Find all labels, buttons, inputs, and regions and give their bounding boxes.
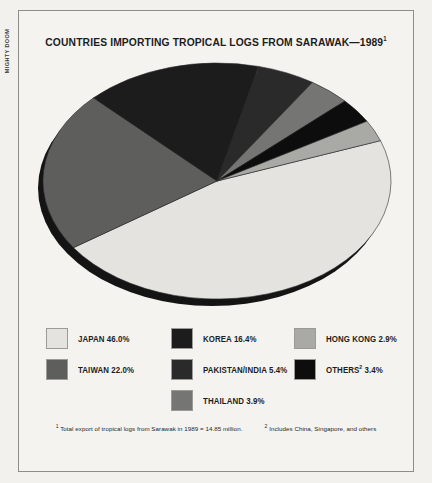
legend-label: TAIWAN 22.0% — [78, 365, 134, 375]
legend-swatch — [294, 328, 316, 349]
figure-page: MIGHTY DOOM COUNTRIES IMPORTING TROPICAL… — [0, 0, 432, 483]
footnotes: 1 Total export of tropical logs from Sar… — [19, 423, 413, 432]
legend-label: PAKISTAN/INDIA 5.4% — [203, 365, 287, 375]
legend-item: PAKISTAN/INDIA 5.4% — [171, 354, 293, 385]
legend-label: THAILAND 3.9% — [203, 396, 265, 406]
legend-label: HONG KONG 2.9% — [326, 334, 397, 344]
chart-title-footnote-marker: 1 — [383, 35, 386, 42]
legend-column-3: HONG KONG 2.9%OTHERS2 3.4% — [294, 323, 401, 385]
legend-label: KOREA 16.4% — [203, 334, 257, 344]
pie-chart-svg — [31, 53, 403, 315]
legend-swatch — [46, 328, 68, 349]
chart-title-text: COUNTRIES IMPORTING TROPICAL LOGS FROM S… — [45, 36, 383, 48]
footnote: 2 Includes China, Singapore, and others — [265, 423, 377, 432]
edge-caption: MIGHTY DOOM — [0, 8, 15, 94]
pie-chart — [31, 53, 403, 315]
legend-swatch — [46, 359, 68, 380]
legend-swatch — [171, 359, 193, 380]
legend-label: JAPAN 46.0% — [78, 334, 130, 344]
footnote-text: Includes China, Singapore, and others — [267, 425, 376, 432]
legend-footnote-marker: 2 — [359, 364, 362, 370]
footnote-text: Total export of tropical logs from Saraw… — [59, 425, 243, 432]
legend-item: OTHERS2 3.4% — [294, 354, 401, 385]
legend-item: JAPAN 46.0% — [46, 323, 138, 354]
legend-item: HONG KONG 2.9% — [294, 323, 401, 354]
pie-slice-group — [43, 63, 391, 299]
legend-column-1: JAPAN 46.0%TAIWAN 22.0% — [46, 323, 138, 385]
legend-column-2: KOREA 16.4%PAKISTAN/INDIA 5.4%THAILAND 3… — [171, 323, 293, 416]
legend-swatch — [294, 359, 316, 380]
edge-caption-text: MIGHTY DOOM — [4, 29, 10, 73]
page-title: COUNTRIES IMPORTING TROPICAL LOGS FROM S… — [35, 35, 397, 48]
legend-label: OTHERS2 3.4% — [326, 364, 383, 375]
legend-item: KOREA 16.4% — [171, 323, 293, 354]
footnote: 1 Total export of tropical logs from Sar… — [56, 423, 243, 432]
legend-swatch — [171, 390, 193, 411]
legend-item: THAILAND 3.9% — [171, 385, 293, 416]
legend: JAPAN 46.0%TAIWAN 22.0% KOREA 16.4%PAKIS… — [19, 323, 413, 423]
figure-plate: COUNTRIES IMPORTING TROPICAL LOGS FROM S… — [18, 10, 414, 472]
legend-swatch — [171, 328, 193, 349]
legend-item: TAIWAN 22.0% — [46, 354, 138, 385]
